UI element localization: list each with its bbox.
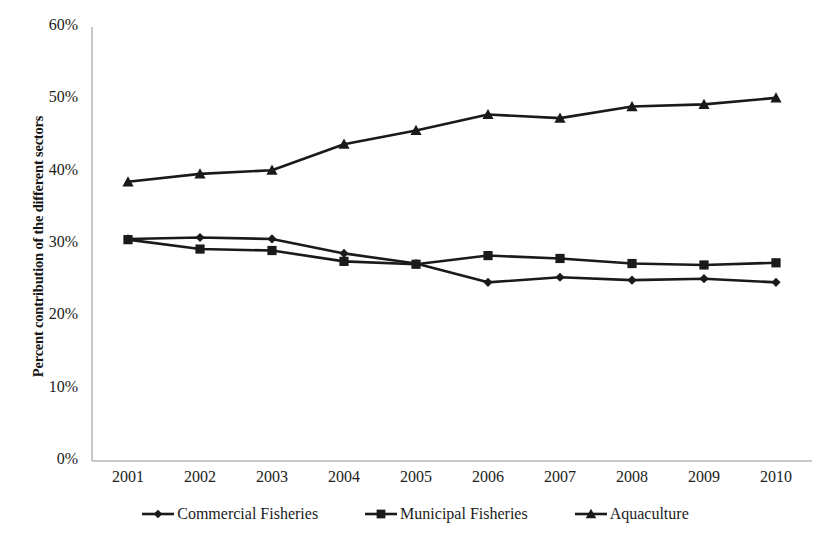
marker-square xyxy=(483,251,492,260)
marker-square xyxy=(627,259,636,268)
legend-marker-diamond xyxy=(141,505,175,523)
marker-diamond xyxy=(339,249,348,258)
legend-marker-triangle xyxy=(574,505,608,523)
marker-diamond xyxy=(627,276,636,285)
chart-legend: Commercial FisheriesMunicipal FisheriesA… xyxy=(0,505,830,523)
line-chart: Percent contribution of the different se… xyxy=(0,0,830,544)
marker-square xyxy=(555,254,564,263)
marker-square xyxy=(699,260,708,269)
plot-area xyxy=(0,0,830,544)
legend-item[interactable]: Municipal Fisheries xyxy=(364,505,528,523)
legend-label: Aquaculture xyxy=(610,505,689,523)
marker-diamond xyxy=(483,278,492,287)
series-municipal-fisheries xyxy=(123,235,780,270)
legend-item[interactable]: Aquaculture xyxy=(574,505,689,523)
marker-square xyxy=(195,244,204,253)
series-line xyxy=(128,240,776,265)
marker-square xyxy=(123,235,132,244)
series-aquaculture xyxy=(122,92,781,186)
legend-label: Municipal Fisheries xyxy=(400,505,528,523)
marker-diamond xyxy=(771,278,780,287)
marker-diamond xyxy=(267,234,276,243)
marker-diamond xyxy=(195,233,204,242)
marker-square xyxy=(411,260,420,269)
marker-diamond xyxy=(699,274,708,283)
series-line xyxy=(128,98,776,182)
legend-label: Commercial Fisheries xyxy=(177,505,318,523)
marker-square xyxy=(267,246,276,255)
marker-diamond xyxy=(555,273,564,282)
marker-square xyxy=(377,510,386,519)
legend-item[interactable]: Commercial Fisheries xyxy=(141,505,318,523)
marker-diamond xyxy=(154,510,163,519)
marker-square xyxy=(771,258,780,267)
marker-square xyxy=(339,257,348,266)
legend-marker-square xyxy=(364,505,398,523)
